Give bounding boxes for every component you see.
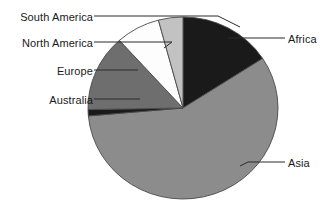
pie-label-australia: Australia [49, 94, 93, 106]
pie-label-europe: Europe [57, 65, 93, 77]
pie-label-asia: Asia [288, 157, 310, 169]
pie-slice-group [88, 17, 278, 199]
pie-label-south-america: South America [20, 11, 93, 23]
pie-label-north-america: North America [22, 37, 93, 49]
pie-label-africa: Africa [288, 33, 317, 45]
pie-chart-figure: South America North America Europe Austr… [0, 0, 326, 206]
